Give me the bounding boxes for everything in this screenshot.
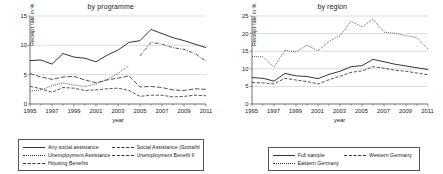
x-tick-label: 2003 — [333, 108, 346, 114]
legend-item: Western Germany — [344, 151, 416, 159]
y-tick-label: 25 — [242, 13, 248, 19]
x-tick-label: 2007 — [377, 108, 390, 114]
legend-label: Full sample — [298, 152, 325, 158]
chart-panel-by-programme: by programme Receipt rate in % year 0510… — [0, 0, 222, 174]
y-tick-label: 10 — [242, 66, 248, 72]
x-tick-label: 2001 — [311, 108, 324, 114]
legend-right: Full sample Western Germany Eastern Germ… — [268, 147, 420, 171]
x-tick-label: 2001 — [90, 108, 103, 114]
legend-item: Eastern Germany — [273, 159, 416, 167]
y-tick-label: 10 — [21, 42, 27, 48]
y-tick-label: 5 — [24, 72, 27, 78]
series-line — [252, 67, 428, 84]
chart-svg — [30, 16, 206, 104]
legend-item: Any social assistance — [23, 143, 112, 151]
x-tick-label: 2005 — [355, 108, 368, 114]
legend-swatch-dashed-icon — [112, 144, 134, 150]
legend-label: Housing Benefits — [48, 160, 88, 166]
plot-canvas-left — [30, 16, 206, 104]
x-tick-label: 1995 — [245, 108, 258, 114]
legend-swatch-solid-icon — [273, 152, 295, 158]
series-line — [30, 73, 206, 90]
legend-item: Housing Benefits — [23, 159, 200, 167]
x-tick-label: 2011 — [421, 108, 433, 114]
legend-item: Unemployment Assistance — [23, 151, 112, 159]
legend-label: Unemployment Benefit II — [137, 152, 195, 158]
x-tick-label: 2005 — [134, 108, 147, 114]
x-axis-label-left: year — [30, 117, 206, 123]
legend-item: Social Assistance (Sozialhilfe) — [112, 143, 201, 151]
x-tick-label: 2011 — [200, 108, 212, 114]
series-line — [30, 86, 206, 97]
x-tick-label: 1997 — [46, 108, 59, 114]
legend-swatch-longdash-icon — [23, 160, 45, 166]
legend-label: Western Germany — [369, 152, 412, 158]
legend-swatch-dashdot-icon — [112, 152, 134, 158]
legend-item: Unemployment Benefit II — [112, 151, 201, 159]
legend-swatch-dotted-icon — [273, 160, 295, 166]
y-tick-label: 20 — [242, 31, 248, 37]
figure-panels: by programme Receipt rate in % year 0510… — [0, 0, 443, 174]
legend-label: Unemployment Assistance — [48, 152, 110, 158]
series-line — [30, 29, 206, 64]
plot-canvas-right — [252, 16, 428, 104]
y-tick-label: 0 — [24, 101, 27, 107]
series-line — [252, 59, 428, 81]
legend-label: Any social assistance — [48, 144, 99, 150]
legend-swatch-dashed-icon — [344, 152, 366, 158]
x-tick-label: 1999 — [289, 108, 302, 114]
plot-area-right: Receipt rate in % year 05101520251995199… — [252, 16, 428, 104]
x-tick-label: 2003 — [112, 108, 125, 114]
legend-label: Eastern Germany — [298, 160, 340, 166]
y-tick-label: 15 — [21, 13, 27, 19]
legend-item: Full sample — [273, 151, 345, 159]
x-tick-label: 1999 — [68, 108, 81, 114]
x-tick-label: 2007 — [156, 108, 169, 114]
chart-svg — [252, 16, 428, 104]
y-tick-label: 0 — [245, 101, 248, 107]
x-tick-label: 1995 — [24, 108, 37, 114]
x-tick-label: 1997 — [267, 108, 280, 114]
y-tick-label: 5 — [245, 83, 248, 89]
legend-swatch-solid-icon — [23, 144, 45, 150]
legend-swatch-dotted-icon — [23, 152, 45, 158]
x-tick-label: 2009 — [399, 108, 412, 114]
legend-label: Social Assistance (Sozialhilfe) — [137, 144, 201, 150]
chart-panel-by-region: by region Receipt rate in % year 0510152… — [222, 0, 443, 174]
plot-area-left: Receipt rate in % year 05101519951997199… — [30, 16, 206, 104]
series-line — [252, 19, 428, 67]
x-tick-label: 2009 — [178, 108, 191, 114]
x-axis-label-right: year — [252, 117, 428, 123]
legend-left: Any social assistance Social Assistance … — [18, 139, 204, 171]
y-tick-label: 15 — [242, 48, 248, 54]
